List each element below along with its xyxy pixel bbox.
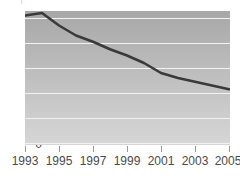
x-tick-2003 (195, 146, 196, 152)
x-tick-1995 (59, 146, 60, 152)
x-tick-1993 (25, 146, 26, 152)
cropped-title-text: · · | · · · · · · · (8, 0, 240, 4)
data-line-series-value (25, 13, 229, 89)
data-line-svg (25, 11, 230, 145)
x-tick-label-2005: 2005 (208, 155, 240, 167)
cropped-title-strip: · · | · · · · · · · (0, 0, 240, 8)
x-tick-2005 (229, 146, 230, 152)
x-tick-1999 (127, 146, 128, 152)
x-tick-2001 (161, 146, 162, 152)
x-tick-1997 (93, 146, 94, 152)
plot-area (25, 11, 230, 145)
line-chart: · · | · · · · · · · 50 40 30 20 10 0 199… (0, 0, 240, 181)
